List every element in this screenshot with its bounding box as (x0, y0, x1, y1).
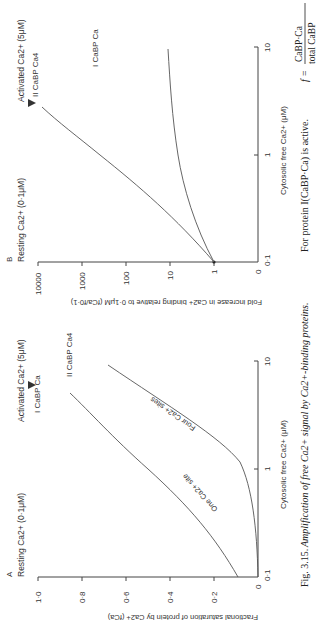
rotated-page: A Resting Ca2+ (0·1μM) Activated Ca2+ (5… (0, 0, 319, 627)
figure-caption: Fig. 3.15. Amplification of free Ca2+ si… (294, 3, 317, 587)
x-tick-a: 0·1 (263, 569, 272, 581)
panel-a: A Resting Ca2+ (0·1μM) Activated Ca2+ (5… (5, 332, 288, 622)
panel-b-label: B (5, 257, 14, 262)
formula-lhs: f = (299, 70, 310, 82)
curve-i-label-b: I CaBP Ca (91, 29, 100, 67)
panel-a-label: A (5, 571, 14, 577)
formula-denominator: total CaBP (307, 23, 317, 64)
activated-arrow-icon (28, 99, 36, 107)
y-tick-b: 0 (254, 269, 263, 274)
caption-italic: Amplification of free Ca2+ signal by Ca2… (299, 303, 310, 548)
four-sites-note: Four Ca2+ sites (148, 395, 197, 433)
figure-canvas: A Resting Ca2+ (0·1μM) Activated Ca2+ (5… (0, 0, 319, 627)
one-site-note: One Ca2+ site (181, 472, 220, 514)
y-tick-b: 10000 (34, 272, 43, 295)
y-tick-b: 1 (210, 269, 219, 274)
curve-ii-b (42, 107, 214, 262)
panel-b-x-label: Cytosolic free Ca2+ (μM) (279, 106, 288, 195)
curve-i-label-a: I CaBP Ca (33, 375, 42, 413)
panel-b: B Resting Ca2+ (0·1μM) Activated Ca2+ (5… (5, 19, 288, 307)
curve-ii-label-b: II CaBP Ca4 (31, 52, 40, 97)
panel-a-resting-label: Resting Ca2+ (0·1μM) (16, 493, 26, 577)
y-tick-b: 10 (166, 271, 175, 280)
curve-i-a (70, 393, 238, 577)
y-tick-a: 0·2 (210, 591, 219, 603)
y-tick-a: 1·0 (34, 591, 43, 603)
formula-numerator: CaBP·Ca (294, 25, 304, 62)
y-tick-a: 0·8 (78, 591, 87, 603)
curve-ii-label-a: II CaBP Ca4 (65, 332, 74, 377)
panel-b-y-label: Fold increase in Ca2+ binding relative t… (70, 298, 262, 307)
panel-b-activated-label: Activated Ca2+ (5μM) (16, 19, 26, 102)
caption-roman: For protein I(CaBP·Ca) is active. (299, 119, 311, 252)
x-tick-b: 1 (263, 152, 272, 157)
y-tick-b: 100 (122, 271, 131, 285)
figure-number: Fig. 3.15. (299, 549, 310, 587)
x-tick-b: 0·1 (263, 254, 272, 266)
panel-b-resting-label: Resting Ca2+ (0·1μM) (16, 178, 26, 262)
panel-a-activated-label: Activated Ca2+ (5μM) (16, 339, 26, 422)
x-tick-a: 10 (263, 357, 272, 366)
curve-ii-a (108, 365, 258, 577)
y-tick-b: 1000 (78, 272, 87, 290)
panel-a-y-label: Fractional saturation of protein by Ca2+… (107, 613, 258, 622)
curve-i-b (168, 49, 214, 262)
y-tick-a: 0·6 (122, 591, 131, 603)
panel-a-x-label: Cytosolic free Ca2+ (μM) (279, 420, 288, 509)
x-tick-b: 10 (263, 43, 272, 52)
y-tick-a: 0·4 (166, 591, 175, 603)
y-tick-a: 0 (254, 584, 263, 589)
x-tick-a: 1 (263, 466, 272, 471)
